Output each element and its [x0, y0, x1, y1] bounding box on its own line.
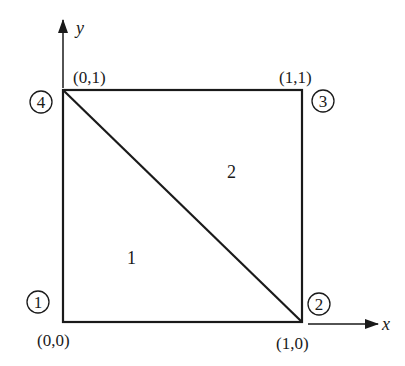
node-label-2: 2 — [315, 295, 324, 314]
node-coord-3: (1,1) — [279, 68, 312, 87]
node-label-3: 3 — [319, 92, 328, 111]
element-label-2: 2 — [227, 162, 236, 182]
x-axis-label: x — [381, 314, 390, 334]
node-coord-1: (0,0) — [37, 331, 70, 350]
y-axis-label: y — [74, 18, 84, 38]
node-label-4: 4 — [37, 93, 46, 112]
element-label-1: 1 — [127, 248, 136, 268]
node-label-1: 1 — [34, 293, 43, 312]
diagram-canvas: y x 1 2 1 (0,0) 2 (1,0) 3 (1,1 — [0, 0, 405, 366]
fe-mesh-diagram: y x 1 2 1 (0,0) 2 (1,0) 3 (1,1 — [0, 0, 405, 366]
element-diagonal-edge — [63, 90, 302, 322]
node-coord-2: (1,0) — [276, 334, 309, 353]
x-axis: x — [308, 314, 390, 334]
node-coord-4: (0,1) — [73, 68, 106, 87]
